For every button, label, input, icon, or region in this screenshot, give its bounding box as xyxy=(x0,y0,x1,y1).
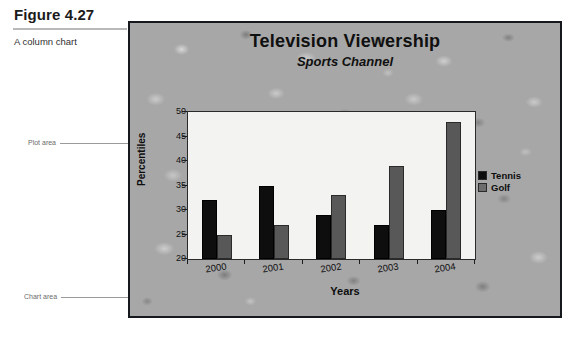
caption-divider xyxy=(13,28,127,30)
plot-area[interactable] xyxy=(187,111,476,260)
chart-area[interactable]: Television Viewership Sports Channel Per… xyxy=(128,21,562,318)
x-axis-tick-label: 2004 xyxy=(429,260,462,276)
bar-golf-2002[interactable] xyxy=(331,195,346,259)
bar-golf-2001[interactable] xyxy=(274,225,289,259)
x-axis-title: Years xyxy=(130,285,560,297)
bar-group xyxy=(202,112,232,259)
x-axis-tick-label: 2000 xyxy=(199,260,232,276)
legend-item-golf[interactable]: Golf xyxy=(478,182,521,193)
bar-group xyxy=(316,112,346,259)
legend[interactable]: TennisGolf xyxy=(475,166,526,197)
legend-swatch-icon xyxy=(478,171,487,180)
x-axis-labels: 20002001200220032004 xyxy=(187,262,476,284)
legend-item-label: Golf xyxy=(491,182,510,193)
y-axis-title: Percentiles xyxy=(136,133,147,186)
bar-golf-2000[interactable] xyxy=(217,235,232,260)
bar-tennis-2003[interactable] xyxy=(374,225,389,259)
chart-subtitle: Sports Channel xyxy=(130,54,560,69)
bar-group xyxy=(431,112,461,259)
bar-group xyxy=(374,112,404,259)
callout-chart-area: Chart area xyxy=(24,293,145,300)
x-axis-tick-label: 2001 xyxy=(256,260,289,276)
bar-tennis-2000[interactable] xyxy=(202,200,217,259)
callout-chart-area-label: Chart area xyxy=(24,293,57,300)
callout-plot-area-label: Plot area xyxy=(28,139,56,146)
bar-tennis-2004[interactable] xyxy=(431,210,446,259)
figure-subcaption: A column chart xyxy=(14,36,77,47)
figure-caption: Figure 4.27 xyxy=(14,6,94,23)
bar-groups xyxy=(188,112,475,259)
chart-title: Television Viewership xyxy=(130,31,560,52)
bar-group xyxy=(259,112,289,259)
legend-item-label: Tennis xyxy=(491,170,521,181)
legend-swatch-icon xyxy=(478,183,487,192)
x-axis-tick-label: 2003 xyxy=(371,260,404,276)
x-axis-tick-label: 2002 xyxy=(314,260,347,276)
bar-golf-2004[interactable] xyxy=(446,122,461,259)
bar-tennis-2002[interactable] xyxy=(316,215,331,259)
bar-golf-2003[interactable] xyxy=(389,166,404,259)
legend-item-tennis[interactable]: Tennis xyxy=(478,170,521,181)
bar-tennis-2001[interactable] xyxy=(259,186,274,260)
